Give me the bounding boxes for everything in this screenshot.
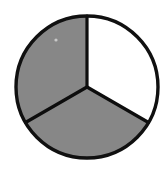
pie-chart-svg (0, 0, 164, 172)
light-speck-artifact (54, 38, 57, 41)
figure-root (0, 0, 164, 172)
